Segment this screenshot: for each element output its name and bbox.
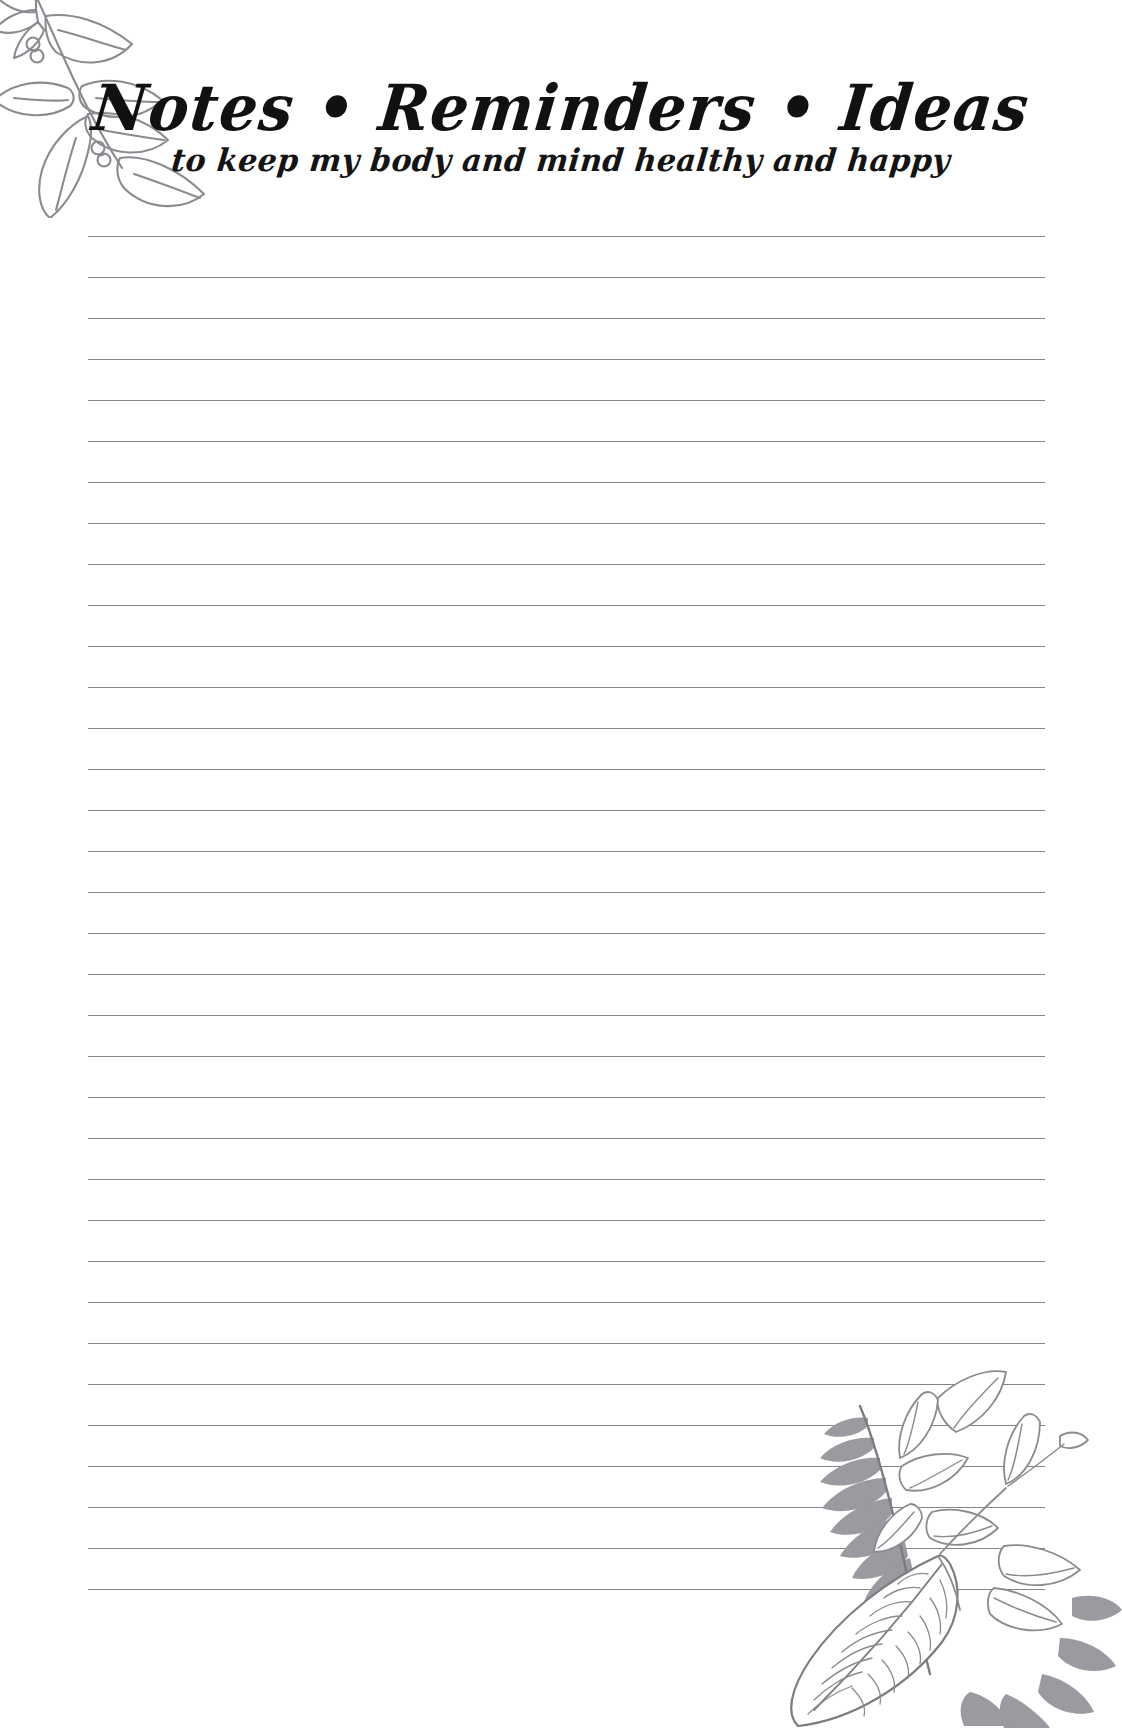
writing-line[interactable] (88, 1056, 1045, 1057)
writing-line[interactable] (88, 1097, 1045, 1098)
writing-line[interactable] (88, 1015, 1045, 1016)
writing-line[interactable] (88, 892, 1045, 893)
writing-line[interactable] (88, 1261, 1045, 1262)
writing-line[interactable] (88, 728, 1045, 729)
writing-line[interactable] (88, 482, 1045, 483)
ruled-lines-area (0, 0, 1122, 1728)
writing-line[interactable] (88, 564, 1045, 565)
writing-line[interactable] (88, 1138, 1045, 1139)
writing-line[interactable] (88, 523, 1045, 524)
writing-line[interactable] (88, 1179, 1045, 1180)
writing-line[interactable] (88, 810, 1045, 811)
writing-line[interactable] (88, 1466, 1045, 1467)
writing-line[interactable] (88, 605, 1045, 606)
writing-line[interactable] (88, 236, 1045, 237)
writing-line[interactable] (88, 1343, 1045, 1344)
writing-line[interactable] (88, 1507, 1045, 1508)
writing-line[interactable] (88, 1548, 1045, 1549)
writing-line[interactable] (88, 400, 1045, 401)
writing-line[interactable] (88, 359, 1045, 360)
writing-line[interactable] (88, 1302, 1045, 1303)
writing-line[interactable] (88, 1589, 1045, 1590)
notes-page: Notes • Reminders • Ideas to keep my bod… (0, 0, 1122, 1728)
writing-line[interactable] (88, 277, 1045, 278)
writing-line[interactable] (88, 646, 1045, 647)
writing-line[interactable] (88, 851, 1045, 852)
writing-line[interactable] (88, 933, 1045, 934)
writing-line[interactable] (88, 1425, 1045, 1426)
writing-line[interactable] (88, 687, 1045, 688)
writing-line[interactable] (88, 318, 1045, 319)
writing-line[interactable] (88, 974, 1045, 975)
writing-line[interactable] (88, 1220, 1045, 1221)
writing-line[interactable] (88, 441, 1045, 442)
writing-line[interactable] (88, 1384, 1045, 1385)
writing-line[interactable] (88, 769, 1045, 770)
